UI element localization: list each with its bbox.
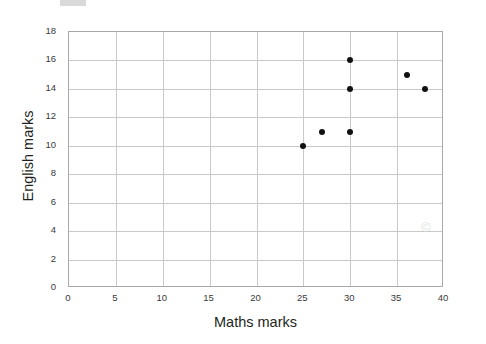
gridline-horizontal (69, 203, 442, 204)
gridline-vertical (350, 32, 351, 286)
data-point (347, 129, 353, 135)
x-tick-label: 15 (189, 292, 229, 303)
cut-off-text-fragment (60, 0, 86, 6)
data-point (422, 86, 428, 92)
gridline-vertical (163, 32, 164, 286)
gridline-vertical (257, 32, 258, 286)
y-tick-label: 12 (16, 110, 56, 121)
x-axis-title: Maths marks (68, 314, 443, 330)
data-point (319, 129, 325, 135)
data-point (300, 143, 306, 149)
gridline-horizontal (69, 60, 442, 61)
gridline-vertical (116, 32, 117, 286)
x-tick-label: 30 (329, 292, 369, 303)
y-tick-label: 4 (16, 224, 56, 235)
x-tick-label: 35 (376, 292, 416, 303)
watermark: © (421, 222, 435, 246)
x-tick-label: 5 (95, 292, 135, 303)
data-point (347, 86, 353, 92)
data-point (404, 72, 410, 78)
scatter-chart: Maths marks English marks © 051015202530… (0, 0, 486, 344)
gridline-vertical (210, 32, 211, 286)
y-tick-label: 18 (16, 25, 56, 36)
x-tick-label: 0 (48, 292, 88, 303)
x-tick-label: 25 (282, 292, 322, 303)
y-tick-label: 2 (16, 253, 56, 264)
gridline-horizontal (69, 260, 442, 261)
gridline-vertical (303, 32, 304, 286)
plot-area (68, 31, 443, 287)
y-tick-label: 6 (16, 196, 56, 207)
y-axis-title: English marks (20, 76, 36, 236)
x-tick-label: 40 (423, 292, 463, 303)
y-tick-label: 16 (16, 53, 56, 64)
x-tick-label: 20 (236, 292, 276, 303)
gridline-horizontal (69, 89, 442, 90)
gridline-horizontal (69, 117, 442, 118)
y-tick-label: 14 (16, 82, 56, 93)
y-tick-label: 8 (16, 167, 56, 178)
y-tick-label: 0 (16, 281, 56, 292)
gridline-horizontal (69, 231, 442, 232)
data-point (347, 57, 353, 63)
gridline-horizontal (69, 174, 442, 175)
x-tick-label: 10 (142, 292, 182, 303)
y-tick-label: 10 (16, 139, 56, 150)
gridline-vertical (397, 32, 398, 286)
gridline-horizontal (69, 146, 442, 147)
